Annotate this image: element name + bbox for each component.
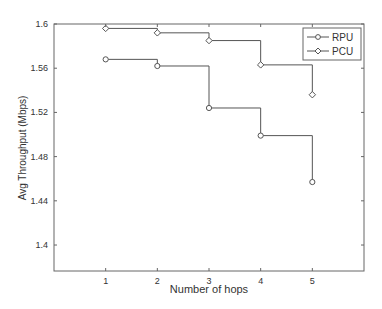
y-tick-label: 1.44 bbox=[30, 196, 48, 206]
data-point bbox=[206, 37, 212, 43]
series-rpu bbox=[103, 57, 315, 185]
data-point bbox=[258, 133, 263, 138]
plot-area bbox=[54, 24, 364, 271]
data-point bbox=[103, 57, 108, 62]
data-point bbox=[154, 30, 160, 36]
legend: RPUPCU bbox=[303, 28, 361, 60]
x-tick-label: 2 bbox=[155, 276, 160, 286]
data-point bbox=[257, 62, 263, 68]
data-point bbox=[309, 92, 315, 98]
x-tick-label: 4 bbox=[258, 276, 263, 286]
y-tick-label: 1.56 bbox=[30, 63, 48, 73]
data-point bbox=[155, 63, 160, 68]
y-tick-label: 1.4 bbox=[35, 240, 48, 250]
data-point bbox=[310, 179, 315, 184]
data-point bbox=[206, 105, 211, 110]
legend-label: PCU bbox=[332, 46, 353, 57]
x-ticks: 12345 bbox=[103, 24, 315, 286]
x-tick-label: 1 bbox=[103, 276, 108, 286]
x-axis-label: Number of hops bbox=[170, 283, 249, 295]
x-tick-label: 5 bbox=[310, 276, 315, 286]
legend-label: RPU bbox=[332, 32, 353, 43]
y-axis-label: Avg Throughput (Mbps) bbox=[17, 96, 28, 201]
y-tick-label: 1.48 bbox=[30, 152, 48, 162]
y-tick-label: 1.52 bbox=[30, 107, 48, 117]
axes-box bbox=[54, 24, 364, 271]
y-tick-label: 1.6 bbox=[35, 19, 48, 29]
throughput-chart: 12345 1.41.441.481.521.561.6 Number of h… bbox=[0, 0, 382, 309]
